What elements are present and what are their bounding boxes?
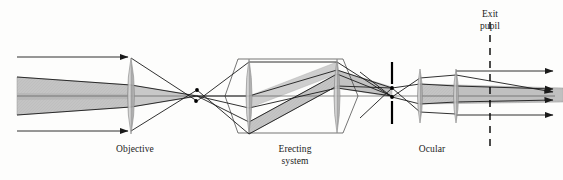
ray-image-to-erect-2 (197, 90, 249, 134)
label-exit-pupil: Exit pupil (458, 8, 522, 32)
label-ocular: Ocular (392, 143, 472, 155)
axial-core-slab (17, 93, 131, 100)
ray-stop-to-ocular-4 (392, 97, 420, 104)
label-objective: Objective (88, 143, 182, 155)
beam-bundles (17, 62, 563, 134)
ray-ocular-1 (420, 75, 456, 78)
ray-image-to-erect-1 (197, 62, 249, 101)
ocular-lens-1 (418, 69, 423, 123)
intermediate-image-lower-dot (194, 99, 198, 103)
objective-lens (128, 58, 135, 134)
ray-stop-to-ocular-1 (392, 88, 420, 112)
label-erecting-system: Erecting system (248, 143, 342, 167)
erected-image-lower-dot (390, 95, 394, 99)
ray-ocular-2 (420, 112, 456, 114)
erected-image-upper-dot (390, 86, 394, 90)
optical-ray-diagram: Objective Erecting system Ocular Exit pu… (0, 0, 563, 180)
intermediate-image-upper-dot (195, 88, 199, 92)
ray-image-to-erect-4 (197, 96, 249, 122)
ray-image-to-erect-5 (197, 96, 249, 108)
